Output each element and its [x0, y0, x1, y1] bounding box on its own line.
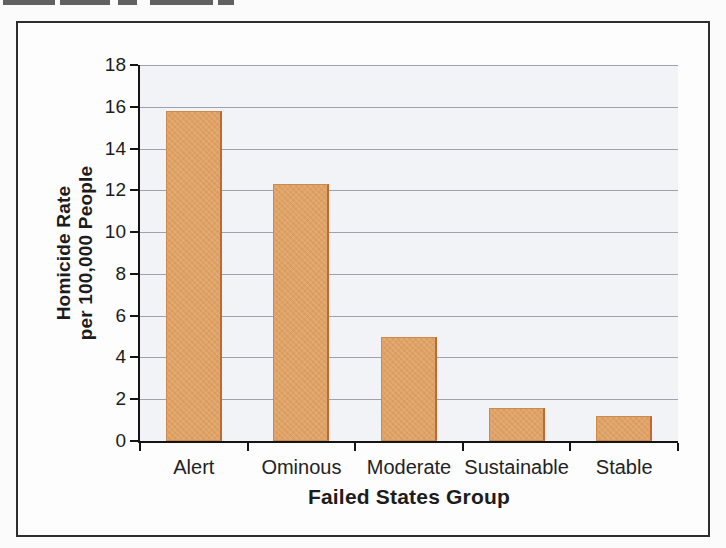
bar-moderate: [381, 337, 437, 441]
y-tick-label: 18: [82, 54, 126, 76]
y-tick: [130, 148, 138, 150]
x-axis-line: [138, 441, 678, 443]
y-tick-label: 16: [82, 96, 126, 118]
x-tick: [247, 443, 249, 451]
bar-sustainable: [489, 408, 545, 441]
y-tick: [130, 398, 138, 400]
x-tick: [139, 443, 141, 451]
cropped-print-artifact: [150, 0, 213, 5]
x-axis-title: Failed States Group: [140, 485, 678, 509]
x-tick: [569, 443, 571, 451]
x-tick: [462, 443, 464, 451]
x-tick: [354, 443, 356, 451]
x-category-label: Stable: [569, 455, 679, 479]
plot-area: [140, 65, 678, 441]
gridline: [140, 65, 678, 66]
y-tick-label: 0: [82, 430, 126, 452]
y-tick-label: 14: [82, 138, 126, 160]
gridline: [140, 107, 678, 108]
x-category-label: Sustainable: [462, 455, 572, 479]
y-tick: [130, 356, 138, 358]
y-tick-label: 12: [82, 179, 126, 201]
y-axis-line: [138, 65, 140, 443]
y-tick: [130, 189, 138, 191]
bar-ominous: [273, 184, 329, 441]
y-axis-title: Homicide Rate per 100,000 People: [52, 65, 100, 441]
y-tick: [130, 315, 138, 317]
figure-frame: Homicide Rate per 100,000 People Failed …: [16, 21, 710, 537]
cropped-print-artifact: [60, 0, 110, 5]
x-category-label: Alert: [139, 455, 249, 479]
bar-alert: [166, 111, 222, 441]
y-tick-label: 2: [82, 388, 126, 410]
y-tick: [130, 440, 138, 442]
y-tick: [130, 64, 138, 66]
x-category-label: Ominous: [246, 455, 356, 479]
bar-stable: [596, 416, 652, 441]
y-axis-title-line1: Homicide Rate: [53, 65, 75, 441]
cropped-print-artifact: [118, 0, 137, 5]
x-tick: [677, 443, 679, 451]
cropped-print-artifact: [3, 0, 55, 5]
y-tick-label: 10: [82, 221, 126, 243]
y-tick: [130, 231, 138, 233]
y-axis-title-line2: per 100,000 People: [75, 65, 97, 441]
y-tick: [130, 273, 138, 275]
y-tick-label: 6: [82, 305, 126, 327]
y-tick-label: 8: [82, 263, 126, 285]
x-category-label: Moderate: [354, 455, 464, 479]
y-tick-label: 4: [82, 346, 126, 368]
cropped-print-artifact: [218, 0, 234, 5]
y-tick: [130, 106, 138, 108]
